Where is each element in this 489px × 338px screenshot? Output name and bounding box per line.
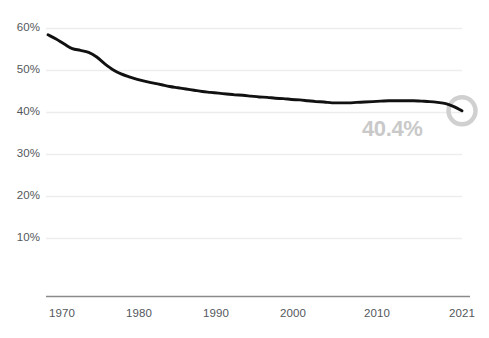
- ytick-label-20: 20%: [0, 190, 40, 202]
- xtick-label-1990: 1990: [186, 308, 246, 320]
- chart-container: 60% 50% 40% 30% 20% 10% 1970 1980 1990 2…: [0, 0, 489, 338]
- xtick-label-1970: 1970: [32, 308, 92, 320]
- ytick-label-50: 50%: [0, 64, 40, 76]
- xtick-label-2000: 2000: [263, 308, 323, 320]
- ytick-label-10: 10%: [0, 232, 40, 244]
- ytick-label-30: 30%: [0, 148, 40, 160]
- xtick-label-2010: 2010: [347, 308, 407, 320]
- xtick-label-2021: 2021: [432, 308, 489, 320]
- series-line-share: [48, 35, 462, 111]
- end-value-label: 40.4%: [362, 118, 422, 140]
- xtick-label-1980: 1980: [109, 308, 169, 320]
- ytick-label-40: 40%: [0, 106, 40, 118]
- chart-canvas: [0, 0, 489, 338]
- ytick-label-60: 60%: [0, 22, 40, 34]
